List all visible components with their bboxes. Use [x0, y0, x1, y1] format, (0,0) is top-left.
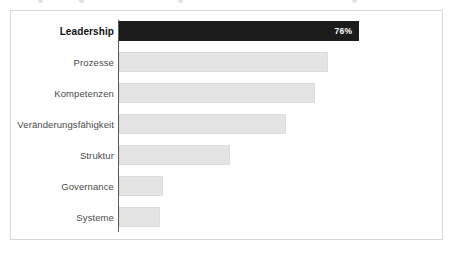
bar: [119, 114, 286, 134]
bar-row: Systeme: [11, 207, 444, 227]
bar-category-label: Kompetenzen: [11, 88, 114, 99]
bar-row: Leadership76%: [11, 21, 444, 41]
bar-rows: Leadership76%ProzesseKompetenzenVeränder…: [11, 21, 444, 227]
bar-track: [119, 145, 444, 165]
bar-category-label: Struktur: [11, 150, 114, 161]
bar-category-label: Governance: [11, 181, 114, 192]
bar-track: [119, 52, 444, 72]
bar: 76%: [119, 21, 359, 41]
bar: [119, 83, 315, 103]
bleed-mark: [38, 0, 43, 3]
bar-track: [119, 176, 444, 196]
bleed-mark: [79, 0, 84, 3]
bar-row: Veränderungsfähigkeit: [11, 114, 444, 134]
bar-category-label: Systeme: [11, 212, 114, 223]
bar-value-label: 76%: [335, 26, 353, 36]
bar-track: [119, 83, 444, 103]
bar-category-label: Leadership: [11, 26, 114, 37]
bar: [119, 145, 230, 165]
clipped-text-bleed: [0, 0, 450, 8]
bar-row: Kompetenzen: [11, 83, 444, 103]
bar: [119, 176, 163, 196]
bar-chart-plot-area: Leadership76%ProzesseKompetenzenVeränder…: [11, 11, 442, 239]
bleed-mark: [352, 0, 357, 3]
bar-row: Governance: [11, 176, 444, 196]
bar-category-label: Veränderungsfähigkeit: [11, 119, 114, 130]
bar-track: [119, 207, 444, 227]
chart-frame: Leadership76%ProzesseKompetenzenVeränder…: [10, 10, 443, 240]
bar-track: [119, 114, 444, 134]
bar: [119, 52, 328, 72]
bar-track: 76%: [119, 21, 444, 41]
bleed-mark: [178, 0, 183, 3]
bar-category-label: Prozesse: [11, 57, 114, 68]
bar-row: Prozesse: [11, 52, 444, 72]
bar: [119, 207, 160, 227]
bar-row: Struktur: [11, 145, 444, 165]
